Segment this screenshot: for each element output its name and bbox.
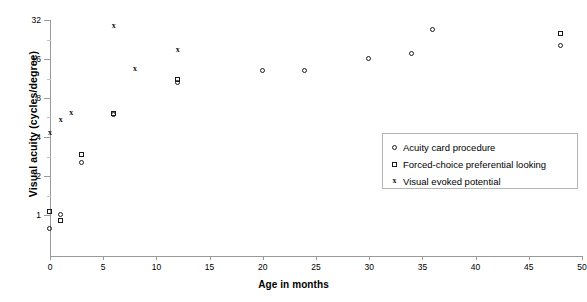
legend-item: xVisual evoked potential: [390, 174, 501, 188]
y-tick-label: 1: [7, 211, 41, 219]
chart-legend: Acuity card procedureForced-choice prefe…: [382, 133, 578, 189]
y-tick-label-wrap: 4: [0, 133, 41, 141]
square-marker: [111, 111, 116, 116]
circle-marker: [430, 27, 435, 32]
x-tick-mark: [103, 256, 104, 260]
circle-marker: [47, 226, 52, 231]
cross-marker: x: [173, 45, 182, 54]
square-marker: [175, 77, 180, 82]
y-axis-line: [50, 20, 51, 256]
x-tick-label: 45: [517, 263, 541, 272]
circle-marker: [558, 43, 563, 48]
y-tick-label-wrap: 2: [0, 172, 41, 180]
x-tick-label: 10: [144, 263, 168, 272]
y-tick-mark: [44, 59, 51, 60]
y-tick-label: 4: [7, 133, 41, 141]
legend-item-label: Acuity card procedure: [403, 142, 495, 153]
x-tick-mark: [369, 256, 370, 260]
x-tick-mark: [582, 256, 583, 260]
legend-item: Forced-choice preferential looking: [390, 157, 546, 171]
x-tick-mark: [50, 256, 51, 260]
y-tick-label: 2: [7, 172, 41, 180]
y-minor-tick-mark: [47, 40, 51, 41]
circle-marker: [366, 56, 371, 61]
y-tick-label-wrap: 8: [0, 94, 41, 102]
circle-marker: [58, 212, 63, 217]
square-marker: [58, 218, 63, 223]
y-tick-mark: [44, 176, 51, 177]
y-tick-label-wrap: 32: [0, 16, 41, 24]
x-tick-mark: [476, 256, 477, 260]
y-tick-label-wrap: 16: [0, 55, 41, 63]
cross-marker: x: [67, 108, 76, 117]
x-tick-mark: [263, 256, 264, 260]
y-tick-mark: [44, 215, 51, 216]
y-tick-mark: [44, 20, 51, 21]
circle-marker: [302, 68, 307, 73]
x-tick-mark: [316, 256, 317, 260]
circle-marker: [260, 68, 265, 73]
legend-item-label: Forced-choice preferential looking: [403, 159, 546, 170]
cross-marker: x: [46, 128, 55, 137]
square-marker: [558, 31, 563, 36]
x-tick-label: 40: [464, 263, 488, 272]
y-minor-tick-mark: [47, 196, 51, 197]
legend-item: Acuity card procedure: [390, 140, 495, 154]
y-minor-tick-mark: [47, 79, 51, 80]
x-tick-label: 15: [198, 263, 222, 272]
cross-marker: x: [109, 21, 118, 30]
cross-marker: x: [131, 64, 140, 73]
legend-square-marker-icon: [392, 162, 397, 167]
x-tick-label: 25: [304, 263, 328, 272]
y-tick-label-wrap: 1: [0, 211, 41, 219]
x-tick-mark: [210, 256, 211, 260]
y-tick-label: 16: [7, 55, 41, 63]
legend-cross-marker-icon: x: [392, 177, 397, 185]
y-tick-label: 32: [7, 16, 41, 24]
x-tick-mark: [156, 256, 157, 260]
y-minor-tick-mark: [47, 117, 51, 118]
circle-marker: [79, 160, 84, 165]
cross-marker: x: [56, 115, 65, 124]
circle-marker: [409, 51, 414, 56]
scatter-chart: Visual acuity (cycles/degree) 12481632 0…: [0, 0, 587, 302]
x-tick-label: 50: [570, 263, 587, 272]
x-tick-label: 0: [38, 263, 62, 272]
square-marker: [79, 152, 84, 157]
x-tick-mark: [422, 256, 423, 260]
x-tick-mark: [529, 256, 530, 260]
y-tick-label: 8: [7, 94, 41, 102]
x-tick-label: 35: [410, 263, 434, 272]
x-tick-label: 20: [251, 263, 275, 272]
y-tick-mark: [44, 98, 51, 99]
x-axis-title: Age in months: [0, 279, 587, 290]
y-axis-title: Visual acuity (cycles/degree): [27, 9, 39, 239]
legend-item-label: Visual evoked potential: [403, 176, 501, 187]
x-tick-label: 30: [357, 263, 381, 272]
x-tick-label: 5: [91, 263, 115, 272]
y-minor-tick-mark: [47, 157, 51, 158]
square-marker: [47, 209, 52, 214]
legend-circle-marker-icon: [392, 145, 397, 150]
